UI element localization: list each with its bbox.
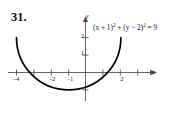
x-axis-label: x — [152, 69, 155, 76]
equation-part-lhs: (x + 1) — [93, 23, 113, 32]
equation-label: (x + 1)2 + (y − 2)2 = 9 — [93, 23, 157, 32]
y-axis-label: y — [86, 13, 89, 20]
x-tick-label-2: 2 — [118, 76, 126, 83]
equation-part-mid: + (y − 2) — [116, 23, 144, 32]
figure-circle-graph: 31. (x + 1)2 + (y − 2)2 = 9 y x -4 -2 -1… — [0, 0, 171, 126]
x-tick-label-neg2: -2 — [48, 76, 57, 83]
x-tick-label-neg1: -1 — [66, 76, 75, 83]
y-tick-label-1: 1 — [78, 50, 84, 57]
x-tick-label-neg4: -4 — [12, 76, 21, 83]
equation-part-rhs: = 9 — [146, 23, 157, 32]
problem-number: 31. — [11, 11, 27, 24]
y-tick-label-2: 2 — [78, 33, 84, 40]
